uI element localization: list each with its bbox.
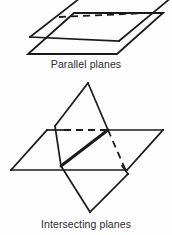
tilted-plane-bottom-left-edge [61, 166, 90, 212]
caption-parallel-planes: Parallel planes [0, 58, 172, 70]
intersecting-tilted-plane [55, 83, 128, 212]
parallel-upper-plane [30, 0, 172, 41]
geometry-figure-page: Parallel planes Intersecting planes [0, 0, 172, 235]
caption-intersecting-planes: Intersecting planes [0, 218, 172, 230]
intersecting-horizontal-plane [11, 130, 163, 170]
tilted-plane-bottom-right-edge [90, 174, 128, 212]
parallel-lower-plane [28, 13, 163, 54]
tilted-plane-upper-right-edge [88, 83, 108, 130]
parallel-planes-diagram [28, 0, 172, 54]
tilted-plane-upper-left-edge [55, 83, 88, 126]
lower-plane-outline [28, 13, 163, 54]
planes-figure-svg [0, 0, 172, 235]
intersecting-planes-diagram [11, 83, 163, 212]
line-of-intersection [61, 130, 108, 166]
horizontal-plane-right-edge [127, 130, 163, 170]
upper-plane-left-edge [30, 0, 84, 37]
tilted-plane-left-lower-edge [55, 126, 61, 166]
upper-plane-right-edge [119, 0, 172, 41]
horizontal-plane-left-edge [11, 130, 47, 170]
tilted-plane-hidden-right-edge [108, 130, 126, 171]
